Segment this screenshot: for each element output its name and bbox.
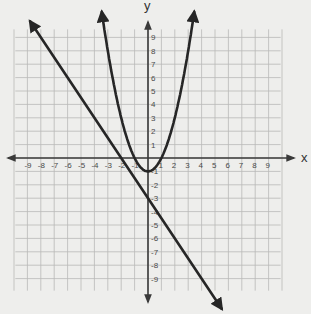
x-tick-label: 2 [172, 161, 177, 170]
y-tick-label: 6 [151, 74, 156, 83]
x-tick-label: 3 [185, 161, 190, 170]
y-tick-label: 2 [151, 127, 156, 136]
y-tick-label: 1 [151, 141, 156, 150]
y-tick-label: 3 [151, 114, 156, 123]
y-tick-label: -7 [151, 248, 159, 257]
y-tick-label: 8 [151, 47, 156, 56]
x-tick-label: -7 [51, 161, 59, 170]
x-tick-label: -3 [105, 161, 113, 170]
y-tick-label: -3 [151, 194, 159, 203]
y-axis-label: y [144, 0, 151, 13]
x-tick-label: 5 [212, 161, 217, 170]
x-tick-label: -8 [38, 161, 46, 170]
y-tick-label: -6 [151, 234, 159, 243]
x-axis-label: x [301, 150, 308, 165]
coordinate-plane: x y -9-8-7-6-5-4-3-2-1123456789 98765432… [0, 0, 311, 314]
y-tick-label: -9 [151, 275, 159, 284]
y-tick-label: -2 [151, 181, 159, 190]
y-tick-label: -8 [151, 261, 159, 270]
y-tick-label: 9 [151, 33, 156, 42]
y-tick-label: 4 [151, 100, 156, 109]
x-tick-label: -6 [65, 161, 73, 170]
x-tick-label: -9 [24, 161, 32, 170]
y-tick-label: -5 [151, 221, 159, 230]
x-tick-label: 7 [239, 161, 244, 170]
x-tick-label: 9 [266, 161, 271, 170]
x-tick-label: -5 [78, 161, 86, 170]
y-tick-label: 5 [151, 87, 156, 96]
x-tick-label: 4 [199, 161, 204, 170]
y-tick-label: 7 [151, 60, 156, 69]
x-tick-label: 8 [252, 161, 257, 170]
x-tick-label: 6 [225, 161, 230, 170]
x-tick-label: -4 [91, 161, 99, 170]
